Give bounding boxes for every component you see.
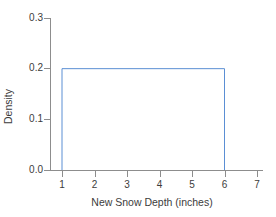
uniform-density-polyline [62, 69, 225, 170]
plot-area: 0.3 0.2 0.1 0.0 1 2 3 4 5 6 7 New Snow D… [0, 0, 276, 217]
density-curve-svg [0, 0, 276, 217]
chart-screenshot: ............ 0.3 0.2 0.1 0.0 1 2 3 4 5 6… [0, 0, 276, 217]
